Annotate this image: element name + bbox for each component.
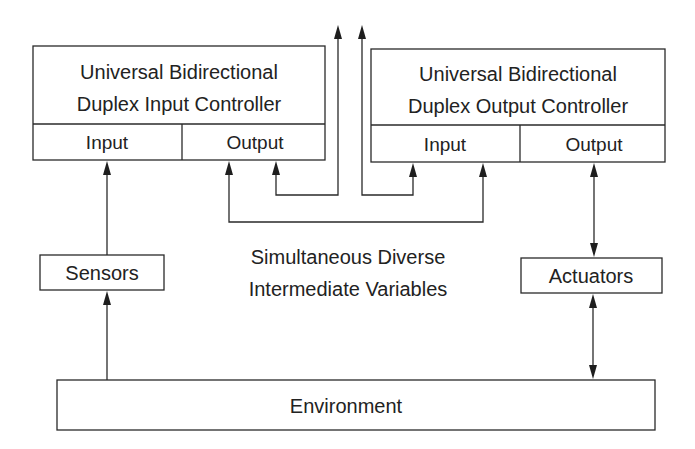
- output-controller-title-line2: Duplex Output Controller: [408, 95, 628, 117]
- intermediate-label-line1: Simultaneous Diverse: [251, 246, 446, 268]
- arrowhead-up-icon: [272, 161, 280, 175]
- environment-block: Environment: [57, 380, 655, 430]
- arrowhead-down-icon: [590, 243, 598, 257]
- arrowhead-up-icon: [358, 25, 366, 39]
- input-controller-port-output: Output: [226, 132, 284, 153]
- output-controller-port-input: Input: [424, 134, 467, 155]
- input-controller-port-input: Input: [86, 132, 129, 153]
- actuators-label: Actuators: [549, 265, 633, 287]
- arrowhead-up-icon: [334, 25, 342, 39]
- output-controller-title-line1: Universal Bidirectional: [419, 63, 617, 85]
- arrowhead-up-icon: [589, 294, 597, 308]
- actuators-block: Actuators: [521, 258, 662, 293]
- arrowhead-up-icon: [103, 291, 111, 305]
- sensors-label: Sensors: [65, 262, 138, 284]
- output-controller: Universal Bidirectional Duplex Output Co…: [371, 49, 665, 162]
- sensors-block: Sensors: [40, 255, 164, 290]
- input-controller-title-line2: Duplex Input Controller: [77, 93, 282, 115]
- input-controller-title-line1: Universal Bidirectional: [80, 61, 278, 83]
- environment-label: Environment: [290, 395, 403, 417]
- output-controller-port-output: Output: [565, 134, 623, 155]
- arrowhead-up-icon: [225, 161, 233, 175]
- arrow-intermediate-loop: [225, 161, 487, 222]
- input-controller: Universal Bidirectional Duplex Input Con…: [33, 46, 325, 160]
- control-architecture-diagram: Universal Bidirectional Duplex Input Con…: [0, 0, 695, 449]
- intermediate-label-line2: Intermediate Variables: [249, 278, 448, 300]
- arrow-environment-to-sensors: [103, 291, 111, 380]
- arrowhead-up-icon: [479, 163, 487, 177]
- arrowhead-up-icon: [103, 161, 111, 175]
- arrow-actuators-environment-bidirectional: [589, 294, 597, 379]
- arrow-sensors-to-input: [103, 161, 111, 255]
- arrowhead-down-icon: [589, 365, 597, 379]
- arrowhead-up-icon: [590, 163, 598, 177]
- arrow-output-actuators-bidirectional: [590, 163, 598, 257]
- arrowhead-up-icon: [409, 163, 417, 177]
